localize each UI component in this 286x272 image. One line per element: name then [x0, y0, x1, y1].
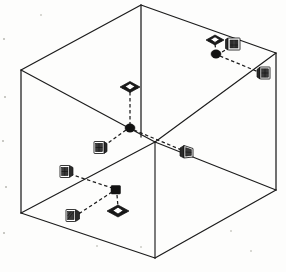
hub-floor[interactable] [107, 181, 125, 198]
device-wall-left-centre[interactable] [90, 139, 110, 157]
device-wall-right-centre[interactable] [178, 143, 198, 161]
device-wall-far-right[interactable] [256, 65, 275, 82]
room-edge-floor-inner-left [21, 142, 155, 213]
device-ceiling-upper-right[interactable] [204, 32, 226, 48]
room-edge-ceiling-left [21, 5, 141, 70]
hub-upper[interactable] [207, 46, 226, 63]
device-wall-lower-left[interactable] [56, 163, 76, 181]
room-sensor-network-diagram [0, 0, 286, 272]
link-layer [70, 44, 261, 215]
device-ceiling-centre[interactable] [118, 78, 142, 95]
device-layer [56, 32, 275, 225]
room-edge-floor-front-left [21, 213, 155, 258]
hub-lower[interactable] [121, 120, 140, 137]
figure-root [0, 0, 286, 272]
device-floor-lower-left[interactable] [62, 207, 83, 225]
link-hub-lower-to-right-panel [134, 130, 184, 151]
device-wall-upper-right[interactable] [224, 36, 244, 53]
room-edge-floor-front-right [155, 190, 276, 258]
room-edge-floor-inner-right [155, 142, 276, 190]
device-floor-dome[interactable] [105, 202, 131, 220]
hub-layer [107, 46, 226, 198]
link-hub-upper-to-farright [220, 56, 261, 73]
